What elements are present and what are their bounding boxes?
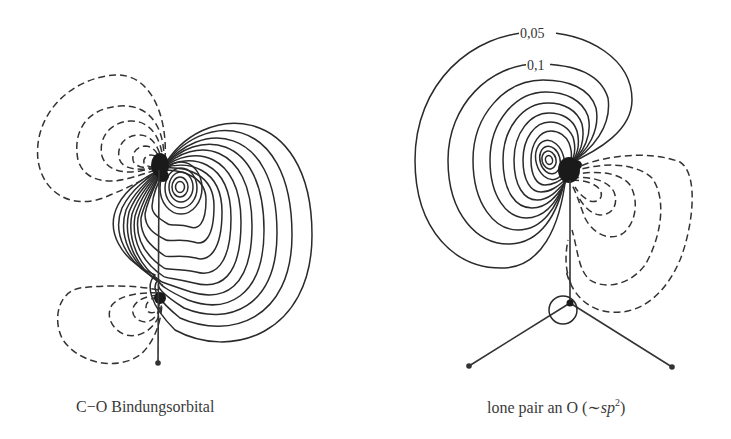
caption-right-suffix: ) xyxy=(620,399,625,416)
orbital-contour-figure: 0,05 0,1 xyxy=(0,0,731,439)
left-bottom-atom-dot xyxy=(155,360,161,366)
right-central-atom-contour xyxy=(549,296,577,324)
caption-right-italic: sp xyxy=(601,399,615,416)
left-bond-axis xyxy=(158,170,159,362)
right-contour-plot: 0,05 0,1 xyxy=(415,26,692,370)
caption-right: lone pair an O (∼sp2) xyxy=(487,398,625,417)
right-right-atom-dot xyxy=(669,364,675,370)
right-positive-contours xyxy=(415,32,632,268)
right-contour-labels: 0,05 0,1 xyxy=(519,26,556,73)
right-left-bond xyxy=(469,303,570,366)
caption-right-prefix: lone pair an O (∼ xyxy=(487,399,601,416)
contour-label-005: 0,05 xyxy=(520,26,545,41)
caption-left: C−O Bindungsorbital xyxy=(76,398,214,416)
right-left-atom-dot xyxy=(466,363,472,369)
right-negative-contours xyxy=(566,155,692,312)
right-molecular-frame xyxy=(466,180,675,370)
contour-label-01: 0,1 xyxy=(527,58,545,73)
left-negative-contours-lower xyxy=(58,286,162,364)
right-central-atom xyxy=(567,300,574,307)
right-nucleus-core xyxy=(558,157,582,183)
left-contour-plot xyxy=(38,75,312,366)
left-positive-contours xyxy=(113,123,312,342)
right-right-bond xyxy=(570,303,672,367)
